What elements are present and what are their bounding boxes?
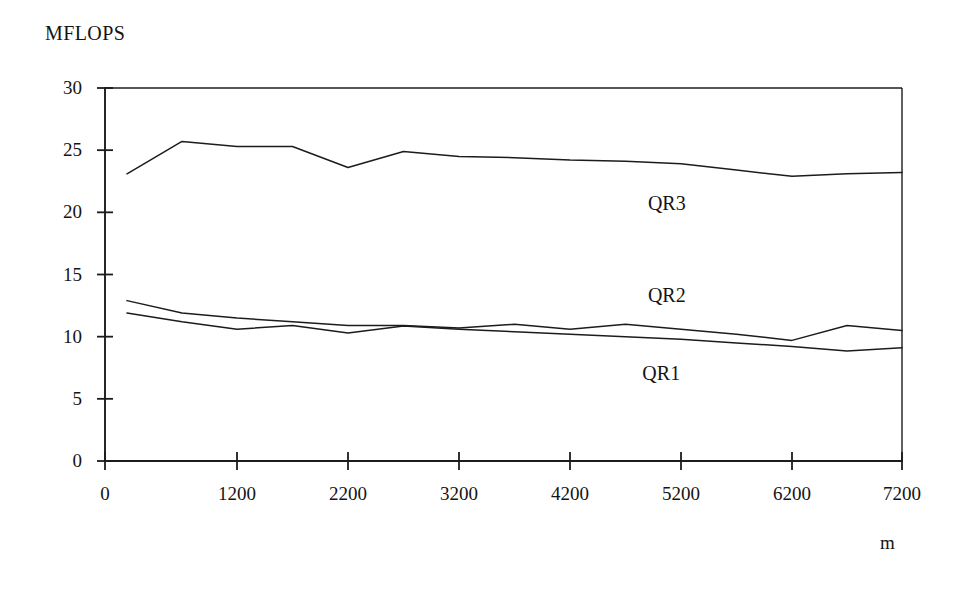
x-tick-label: 4200 — [525, 483, 615, 505]
x-tick-label: 5200 — [636, 483, 726, 505]
y-tick-label: 10 — [38, 326, 82, 348]
y-tick-label: 25 — [38, 139, 82, 161]
x-tick-label: 7200 — [857, 483, 947, 505]
x-tick-label: 3200 — [414, 483, 504, 505]
series-label-qr1: QR1 — [642, 362, 680, 385]
x-tick-label: 1200 — [192, 483, 282, 505]
y-tick-label: 0 — [38, 450, 82, 472]
x-tick-label: 0 — [60, 483, 150, 505]
series-label-qr2: QR2 — [648, 284, 686, 307]
series-group — [127, 141, 902, 351]
y-tick-label: 5 — [38, 388, 82, 410]
y-tick-label: 15 — [38, 264, 82, 286]
x-tick-label: 6200 — [747, 483, 837, 505]
y-tick-label: 30 — [38, 77, 82, 99]
series-line-qr3 — [127, 141, 902, 176]
chart-figure: MFLOPS m 051015202530 012002200320042005… — [0, 0, 972, 590]
x-tick-label: 2200 — [303, 483, 393, 505]
y-tick-label: 20 — [38, 201, 82, 223]
series-label-qr3: QR3 — [648, 192, 686, 215]
series-line-qr2 — [127, 301, 902, 341]
